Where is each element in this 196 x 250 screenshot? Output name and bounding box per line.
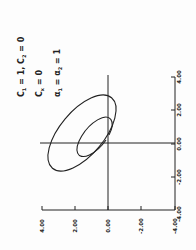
tick-label: 2.00 bbox=[176, 103, 182, 117]
tick-label: -2.00 bbox=[176, 169, 182, 185]
tick-label: 2.00 bbox=[72, 219, 78, 233]
right-axis-labels: 4.00 2.00 0.00 -2.00 -4.00 bbox=[176, 70, 182, 222]
tick-label: 0.00 bbox=[105, 219, 111, 233]
annotation-alpha: α1 = α2 = 1 bbox=[53, 48, 63, 97]
tick-label: 4.00 bbox=[39, 219, 45, 233]
annotation-c1-c2: C1 = 1, C2 = 0 bbox=[17, 36, 27, 97]
parameter-annotations: C1 = 1, C2 = 0 Cx = 0 α1 = α2 = 1 bbox=[17, 36, 63, 97]
tick-label: 0.00 bbox=[176, 137, 182, 151]
bottom-axis-labels: 4.00 2.00 0.00 -2.00 -4.00 bbox=[39, 218, 178, 234]
chart-canvas: 4.00 2.00 0.00 -2.00 -4.00 4.00 2.00 0.0… bbox=[0, 0, 196, 250]
tick-label: 4.00 bbox=[176, 70, 182, 84]
annotation-cx: Cx = 0 bbox=[35, 70, 45, 97]
tick-label: -2.00 bbox=[138, 218, 144, 234]
tick-label: -4.00 bbox=[176, 206, 182, 222]
outer-ellipse bbox=[36, 84, 129, 183]
